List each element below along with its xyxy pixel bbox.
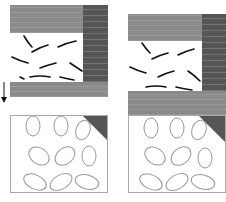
right-stroke-area <box>128 41 202 91</box>
right-top-band <box>128 14 203 41</box>
right-leaf-pattern <box>129 116 226 193</box>
left-dark-column <box>83 5 108 82</box>
left-strokes-graphic <box>10 33 83 82</box>
left-leaf-area <box>10 115 108 193</box>
left-top-band <box>10 5 84 33</box>
right-panel <box>128 14 226 193</box>
left-panel <box>10 5 108 193</box>
right-strokes-graphic <box>128 41 202 91</box>
down-arrow-icon <box>0 82 10 104</box>
left-stroke-area <box>10 33 83 82</box>
right-bottom-band <box>128 91 226 115</box>
left-bottom-band <box>10 82 108 97</box>
right-leaf-area <box>128 115 226 193</box>
left-leaf-pattern <box>11 116 108 193</box>
right-dark-column <box>202 14 226 91</box>
